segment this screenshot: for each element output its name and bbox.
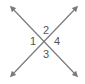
angle-label-2: 2	[43, 24, 49, 36]
angle-label-1: 1	[30, 35, 36, 47]
intersecting-lines-diagram: 1 2 3 4	[0, 0, 85, 84]
angle-label-3: 3	[43, 48, 49, 60]
angle-label-4: 4	[54, 35, 60, 47]
